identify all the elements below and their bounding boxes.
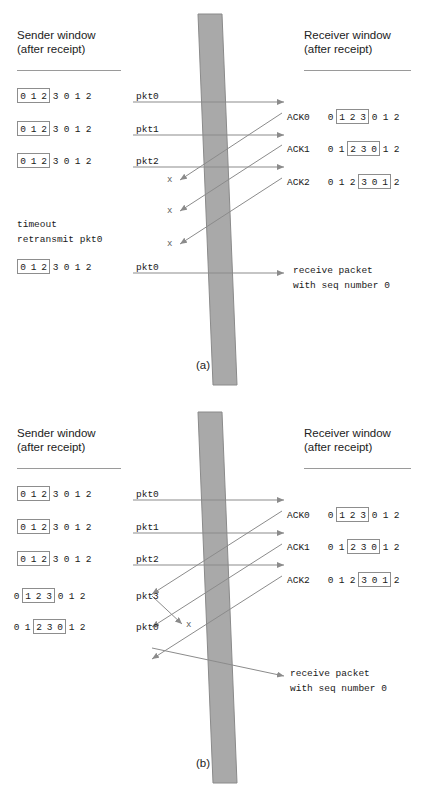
seq-cell: 1 xyxy=(72,486,83,501)
receiver-header-line1: Receiver window xyxy=(304,29,391,41)
seq-cell: 3 xyxy=(50,88,61,103)
receiver-header-rule xyxy=(304,70,411,71)
seq-cell: 2 xyxy=(83,486,94,501)
seq-cell: 0 xyxy=(325,539,336,554)
sender-window-row: 0123012 xyxy=(17,88,94,103)
receive-note-line1: receive packet xyxy=(290,668,370,680)
seq-cell: 2 xyxy=(77,588,88,603)
seq-cell: 2 xyxy=(391,109,402,124)
seq-cell: 0 xyxy=(61,153,72,168)
receiver-header-rule xyxy=(304,468,411,469)
seq-cell: 0 xyxy=(325,572,336,587)
seq-cell: 3 xyxy=(50,121,61,136)
seq-cell: 1 xyxy=(72,88,83,103)
seq-cell: 3 xyxy=(50,551,61,566)
sender-header-rule xyxy=(17,468,121,469)
seq-cell: 1 xyxy=(380,109,391,124)
sender-row-label: pkt0 xyxy=(136,622,159,634)
seq-cell: 1 xyxy=(380,174,391,189)
sender-window-row: 0123012 xyxy=(17,486,94,501)
seq-cell: 1 xyxy=(336,141,347,156)
seq-cell: 1 xyxy=(28,486,39,501)
seq-cell: 2 xyxy=(77,619,88,634)
seq-cell: 2 xyxy=(39,551,50,566)
seq-cell: 2 xyxy=(39,88,50,103)
seq-cell: 0 xyxy=(17,551,28,566)
arrow-ack0-lost xyxy=(180,113,282,180)
timeout-note: timeout xyxy=(17,219,57,231)
ack-label: ACK2 xyxy=(287,575,310,587)
seq-cell: 2 xyxy=(39,153,50,168)
receiver-header-line1: Receiver window xyxy=(304,427,391,439)
seq-cell: 2 xyxy=(347,141,358,156)
seq-cell: 1 xyxy=(380,572,391,587)
sender-row-label: pkt3 xyxy=(136,591,159,603)
sender-window-row: 0123012 xyxy=(11,619,88,634)
seq-cell: 2 xyxy=(347,109,358,124)
ack-label: ACK0 xyxy=(287,510,310,522)
seq-cell: 1 xyxy=(336,539,347,554)
seq-cell: 2 xyxy=(39,519,50,534)
seq-cell: 0 xyxy=(325,141,336,156)
ack-label: ACK1 xyxy=(287,542,310,554)
sender-window-row: 0123012 xyxy=(11,588,88,603)
receiver-window-header: Receiver window (after receipt) xyxy=(304,28,391,56)
seq-cell: 1 xyxy=(72,551,83,566)
seq-cell: 1 xyxy=(380,539,391,554)
sender-window-row: 0123012 xyxy=(17,153,94,168)
seq-cell: 0 xyxy=(55,619,66,634)
seq-cell: 0 xyxy=(17,153,28,168)
receive-note-line2: with seq number 0 xyxy=(290,683,387,695)
seq-cell: 0 xyxy=(325,507,336,522)
seq-cell: 0 xyxy=(17,519,28,534)
sender-row-label: pkt0 xyxy=(136,91,159,103)
seq-cell: 0 xyxy=(17,486,28,501)
receiver-window-row: 0123012 xyxy=(325,141,402,156)
seq-cell: 0 xyxy=(325,109,336,124)
seq-cell: 1 xyxy=(66,619,77,634)
seq-cell: 3 xyxy=(358,141,369,156)
seq-cell: 1 xyxy=(72,153,83,168)
panel-caption-a: (a) xyxy=(196,359,210,371)
seq-cell: 0 xyxy=(17,259,28,274)
seq-cell: 1 xyxy=(22,619,33,634)
seq-cell: 2 xyxy=(391,539,402,554)
seq-cell: 0 xyxy=(369,572,380,587)
seq-cell: 2 xyxy=(83,551,94,566)
retransmit-note: retransmit pkt0 xyxy=(17,234,103,246)
sender-header-line1: Sender window xyxy=(17,29,96,41)
receiver-header-line2: (after receipt) xyxy=(304,440,391,454)
panel-caption-b: (b) xyxy=(196,757,210,769)
seq-cell: 2 xyxy=(39,259,50,274)
seq-cell: 2 xyxy=(391,141,402,156)
receiver-window-row: 0123012 xyxy=(325,109,402,124)
seq-cell: 2 xyxy=(83,259,94,274)
sender-window-row: 0123012 xyxy=(17,519,94,534)
seq-cell: 0 xyxy=(61,88,72,103)
seq-cell: 1 xyxy=(380,507,391,522)
receiver-window-row: 0123012 xyxy=(325,539,402,554)
seq-cell: 2 xyxy=(347,572,358,587)
seq-cell: 0 xyxy=(17,121,28,136)
seq-cell: 2 xyxy=(83,153,94,168)
seq-cell: 0 xyxy=(61,519,72,534)
seq-cell: 1 xyxy=(28,153,39,168)
receiver-window-header: Receiver window (after receipt) xyxy=(304,426,391,454)
seq-cell: 1 xyxy=(336,174,347,189)
seq-cell: 0 xyxy=(369,109,380,124)
sender-header-line2: (after receipt) xyxy=(17,440,96,454)
sender-header-line1: Sender window xyxy=(17,427,96,439)
seq-cell: 2 xyxy=(391,507,402,522)
sender-row-label: pkt0 xyxy=(136,262,159,274)
seq-cell: 3 xyxy=(44,619,55,634)
receiver-window-row: 0123012 xyxy=(325,572,402,587)
seq-cell: 2 xyxy=(33,619,44,634)
seq-cell: 1 xyxy=(28,551,39,566)
sender-row-label: pkt2 xyxy=(136,554,159,566)
seq-cell: 0 xyxy=(61,259,72,274)
seq-cell: 3 xyxy=(358,539,369,554)
receiver-header-line2: (after receipt) xyxy=(304,42,391,56)
seq-cell: 0 xyxy=(11,619,22,634)
ack-label: ACK1 xyxy=(287,144,310,156)
seq-cell: 0 xyxy=(369,141,380,156)
